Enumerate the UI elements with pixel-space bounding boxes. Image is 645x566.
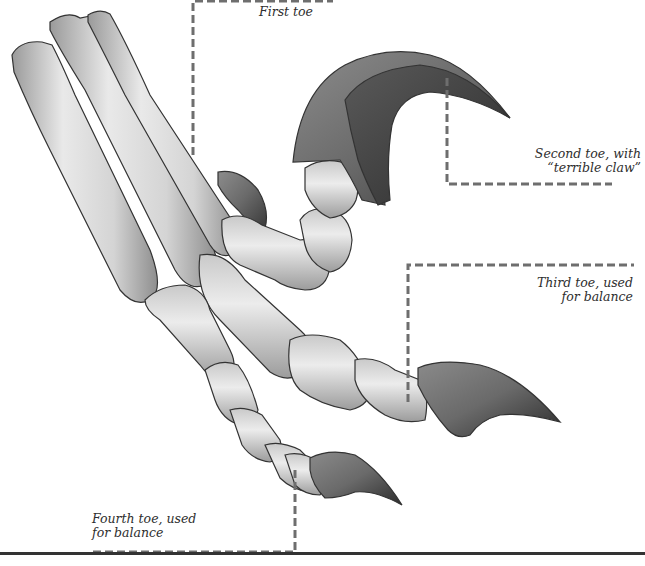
label-third-toe-line-2: for balance (500, 290, 633, 304)
label-third-toe: Third toe, used for balance (500, 276, 633, 304)
label-fourth-toe-line-1: Fourth toe, used (92, 512, 196, 526)
bottom-rule-divider (0, 552, 645, 555)
label-third-toe-line-1: Third toe, used (500, 276, 633, 290)
diagram-stage: First toe Second toe, with “terrible cla… (0, 0, 645, 566)
label-first-toe-line-1: First toe (259, 5, 313, 19)
label-second-toe-line-1: Second toe, with (480, 147, 641, 161)
label-first-toe: First toe (259, 5, 313, 19)
label-second-toe: Second toe, with “terrible claw” (480, 147, 641, 175)
third-toe-claw (418, 362, 560, 437)
fourth-toe-claw (310, 452, 402, 505)
label-fourth-toe-line-2: for balance (92, 526, 196, 540)
label-fourth-toe: Fourth toe, used for balance (92, 512, 196, 540)
label-second-toe-line-2: “terrible claw” (480, 161, 641, 175)
